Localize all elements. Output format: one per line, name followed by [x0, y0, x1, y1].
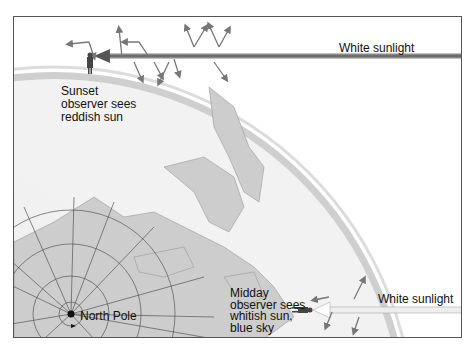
midday-line-4: blue sky: [230, 323, 305, 335]
sunset-observer-icon: [87, 53, 93, 75]
sunset-observer-label: Sunset observer sees reddish sun: [61, 85, 136, 124]
sunlight-label-bottom: White sunlight: [378, 293, 453, 305]
midday-observer-label: Midday observer sees whitish sun, blue s…: [230, 288, 305, 334]
north-pole-label: North Pole: [80, 310, 137, 322]
north-pole-marker: [68, 311, 75, 318]
sunset-line-3: reddish sun: [61, 111, 136, 124]
sunlight-label-top: White sunlight: [339, 42, 414, 54]
diagram-frame: White sunlight White sunlight Sunset obs…: [13, 16, 462, 338]
